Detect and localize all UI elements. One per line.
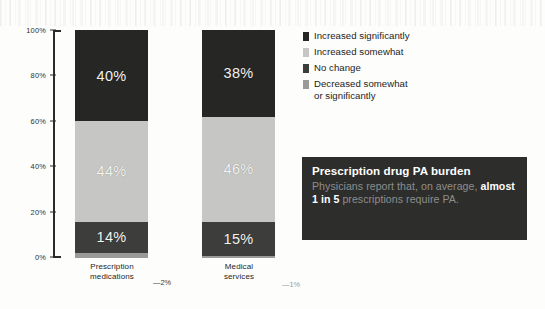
annotation-decreased-medical: —1% bbox=[282, 280, 300, 289]
bar-prescription-medications[interactable]: 40% 44% 14% bbox=[75, 30, 148, 258]
segment-value-label: 15% bbox=[224, 231, 254, 247]
legend-swatch-icon bbox=[303, 64, 309, 73]
plot-area: 100% 80% 60% 40% 20% 0% 40% 44% 14% bbox=[53, 30, 285, 258]
category-label-line-1: Prescription bbox=[57, 262, 167, 272]
stacked-bar-chart-figure: 100% 80% 60% 40% 20% 0% 40% 44% 14% bbox=[0, 0, 545, 309]
callout-body-part1: Physicians report that, on average, bbox=[312, 180, 480, 192]
segment-no-change[interactable]: 14% bbox=[75, 222, 148, 254]
y-tick-mark-20 bbox=[50, 211, 56, 212]
callout-title: Prescription drug PA burden bbox=[312, 164, 517, 177]
y-tick-mark-0 bbox=[50, 257, 56, 258]
y-tick-mark-80 bbox=[50, 75, 56, 76]
legend-item-increased-somewhat[interactable]: Increased somewhat bbox=[303, 46, 533, 58]
y-tick-label-0: 0% bbox=[35, 253, 46, 262]
segment-increased-somewhat[interactable]: 46% bbox=[202, 117, 275, 222]
y-tick-label-60: 60% bbox=[31, 116, 46, 125]
y-axis-line bbox=[53, 30, 55, 258]
segment-increased-significantly[interactable]: 38% bbox=[202, 30, 275, 117]
legend-item-label: Decreased somewhat bbox=[314, 78, 408, 89]
legend-swatch-icon bbox=[303, 32, 309, 41]
y-tick-mark-100 bbox=[50, 30, 56, 31]
segment-increased-somewhat[interactable]: 44% bbox=[75, 121, 148, 221]
legend-item-label: No change bbox=[314, 62, 361, 74]
segment-value-label: 38% bbox=[224, 65, 254, 81]
legend-item-increased-significantly[interactable]: Increased significantly bbox=[303, 30, 533, 42]
category-label-line-2: services bbox=[184, 272, 294, 282]
legend-item-decreased[interactable]: Decreased somewhat or significantly bbox=[303, 78, 533, 101]
category-label-prescription-medications: Prescription medications bbox=[57, 262, 167, 281]
y-tick-mark-40 bbox=[50, 166, 56, 167]
legend-item-label: Increased somewhat bbox=[314, 46, 403, 58]
category-label-medical-services: Medical services bbox=[184, 262, 294, 281]
y-tick-label-100: 100% bbox=[26, 26, 46, 35]
legend-item-label-wrap: Decreased somewhat or significantly bbox=[314, 78, 408, 101]
y-tick-label-20: 20% bbox=[31, 207, 46, 216]
segment-value-label: 44% bbox=[97, 163, 127, 179]
segment-decreased[interactable] bbox=[202, 256, 275, 258]
segment-decreased[interactable] bbox=[75, 253, 148, 258]
y-tick-label-80: 80% bbox=[31, 71, 46, 80]
legend-item-label-continuation: or significantly bbox=[314, 90, 408, 102]
annotation-decreased-prescription: —2% bbox=[153, 278, 171, 287]
segment-value-label: 46% bbox=[224, 161, 254, 177]
segment-value-label: 40% bbox=[97, 68, 127, 84]
callout-body: Physicians report that, on average, almo… bbox=[312, 180, 517, 206]
category-label-line-1: Medical bbox=[184, 262, 294, 272]
legend-item-label: Increased significantly bbox=[314, 30, 410, 42]
callout-box: Prescription drug PA burden Physicians r… bbox=[302, 157, 527, 240]
segment-value-label: 14% bbox=[97, 229, 127, 245]
callout-body-part2: prescriptions require PA. bbox=[339, 193, 458, 205]
segment-increased-significantly[interactable]: 40% bbox=[75, 30, 148, 121]
y-tick-label-40: 40% bbox=[31, 162, 46, 171]
category-label-line-2: medications bbox=[57, 272, 167, 282]
legend-item-no-change[interactable]: No change bbox=[303, 62, 533, 74]
legend-swatch-icon bbox=[303, 80, 309, 89]
segment-no-change[interactable]: 15% bbox=[202, 222, 275, 256]
chart-legend: Increased significantly Increased somewh… bbox=[303, 30, 533, 106]
bar-medical-services[interactable]: 38% 46% 15% bbox=[202, 30, 275, 258]
legend-swatch-icon bbox=[303, 48, 309, 57]
y-tick-mark-60 bbox=[50, 120, 56, 121]
